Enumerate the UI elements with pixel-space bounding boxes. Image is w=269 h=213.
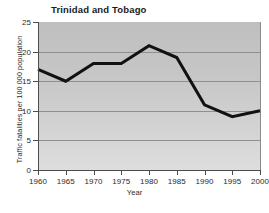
y-axis-tick-label: 20 (1, 47, 31, 56)
x-axis-tick-mark (260, 170, 261, 175)
x-axis-tick-mark (232, 170, 233, 175)
x-axis-tick-mark (66, 170, 67, 175)
x-axis-tick-mark (177, 170, 178, 175)
chart-figure: Trinidad and Tobago Traffic fatalities p… (0, 0, 269, 213)
x-axis-tick-mark (94, 170, 95, 175)
y-axis-tick-label: 10 (1, 106, 31, 115)
y-axis-line (38, 22, 39, 171)
x-axis-tick-mark (205, 170, 206, 175)
footer-strip (0, 200, 269, 213)
y-axis-tick-label: 15 (1, 77, 31, 86)
y-axis-tick-label: 0 (1, 166, 31, 175)
y-axis-tick-mark (33, 140, 38, 141)
plot-area (38, 22, 261, 170)
data-series-line (38, 22, 260, 170)
y-axis-tick-mark (33, 52, 38, 53)
x-axis-tick-mark (149, 170, 150, 175)
x-axis-tick-label: 2000 (240, 177, 269, 186)
y-axis-tick-mark (33, 111, 38, 112)
chart-title: Trinidad and Tobago (51, 4, 147, 15)
y-axis-tick-label: 25 (1, 18, 31, 27)
y-axis-tick-mark (33, 22, 38, 23)
y-axis-tick-mark (33, 81, 38, 82)
x-axis-tick-mark (121, 170, 122, 175)
x-axis-tick-mark (38, 170, 39, 175)
y-axis-tick-label: 5 (1, 136, 31, 145)
x-axis-label: Year (0, 188, 269, 197)
